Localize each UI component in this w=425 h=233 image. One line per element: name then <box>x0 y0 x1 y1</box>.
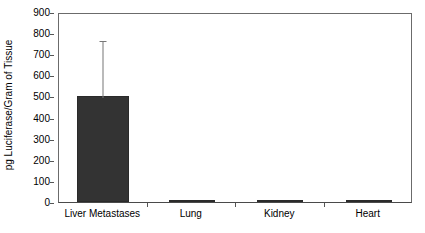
x-axis-category-label: Heart <box>356 209 380 219</box>
error-bar-cap <box>100 41 107 42</box>
y-axis-tick-label: 300 <box>33 135 50 145</box>
y-axis-tick-mark <box>50 76 54 77</box>
bar <box>257 200 303 202</box>
bar <box>169 200 215 202</box>
y-axis-tick-mark <box>50 13 54 14</box>
x-axis-tick-mark <box>147 203 148 207</box>
bar-chart-figure: pg Luciferase/Gram of Tissue 01002003004… <box>0 0 425 233</box>
bar-series <box>59 14 411 202</box>
plot-area <box>58 13 412 203</box>
y-axis-tick-label: 700 <box>33 50 50 60</box>
y-axis-tick-label: 400 <box>33 114 50 124</box>
y-axis-tick-mark <box>50 34 54 35</box>
y-axis-tick-label: 800 <box>33 29 50 39</box>
y-axis-tick-label: 200 <box>33 156 50 166</box>
y-axis-tick-mark <box>50 182 54 183</box>
y-axis-tick-mark <box>50 55 54 56</box>
y-axis-tick-label: 900 <box>33 8 50 18</box>
x-axis-tick-mark <box>324 203 325 207</box>
y-axis-tick-labels: 0100200300400500600700800900 <box>18 0 54 233</box>
y-axis-tick-label: 600 <box>33 71 50 81</box>
bar-group <box>325 14 414 202</box>
error-bar-line <box>103 41 104 98</box>
y-axis-tick-mark <box>50 97 54 98</box>
y-axis-tick-label: 500 <box>33 92 50 102</box>
x-axis: Liver MetastasesLungKidneyHeart <box>58 203 412 233</box>
bar <box>77 96 129 202</box>
bar-group <box>236 14 325 202</box>
x-axis-category-label: Lung <box>180 209 202 219</box>
bar <box>346 200 392 202</box>
y-axis-tick-mark <box>50 161 54 162</box>
x-axis-category-label: Kidney <box>264 209 295 219</box>
y-axis-title: pg Luciferase/Gram of Tissue <box>0 0 18 210</box>
bar-group <box>59 14 148 202</box>
y-axis-tick-mark <box>50 119 54 120</box>
y-axis-tick-mark <box>50 203 54 204</box>
bar-group <box>148 14 237 202</box>
y-axis-title-text: pg Luciferase/Gram of Tissue <box>4 40 14 171</box>
x-axis-tick-mark <box>235 203 236 207</box>
y-axis-tick-label: 100 <box>33 177 50 187</box>
y-axis-tick-mark <box>50 140 54 141</box>
x-axis-category-label: Liver Metastases <box>64 209 140 219</box>
